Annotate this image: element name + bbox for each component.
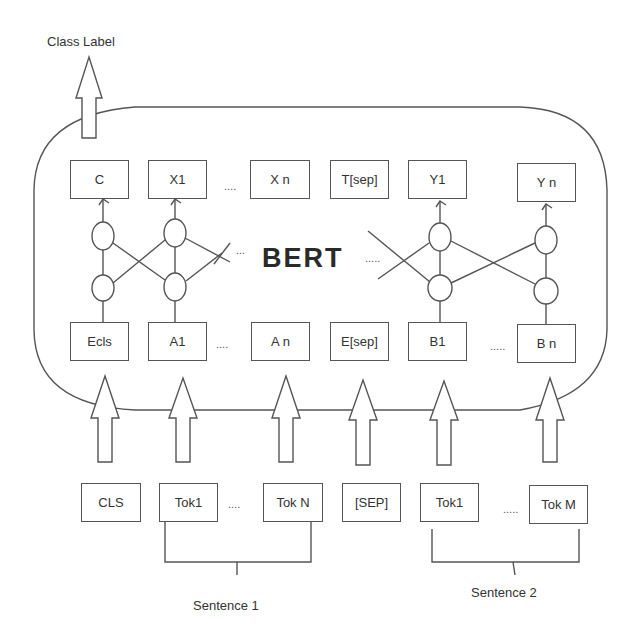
embedding-token-label: B1: [430, 334, 446, 349]
input-box-tok1-s1: Tok1: [159, 483, 218, 522]
input-token-label: [SEP]: [355, 495, 388, 510]
output-box-y1: Y1: [408, 160, 467, 199]
node-circle: [534, 278, 558, 304]
input-token-label: CLS: [98, 495, 123, 510]
node-circle: [429, 223, 451, 251]
input-token-label: Tok1: [436, 495, 463, 510]
node-circle: [92, 222, 114, 250]
input-box-cls: CLS: [81, 483, 141, 522]
embedding-token-label: Ecls: [87, 334, 112, 349]
embedding-box-b1: B1: [408, 322, 467, 361]
bert-right-ellipsis: .....: [365, 252, 380, 264]
up-arrow-icon: [430, 381, 458, 465]
embedding-box-an: A n: [251, 322, 310, 361]
node-circle: [92, 275, 114, 301]
up-arrow-icon: [349, 380, 377, 465]
sentence-brackets: [165, 522, 579, 575]
output-ellipsis: ....: [224, 180, 236, 192]
input-box-tok1-s2: Tok1: [420, 483, 479, 522]
bert-diagram-canvas: [0, 0, 632, 642]
class-label-text: Class Label: [47, 34, 115, 49]
output-token-label: X1: [170, 172, 186, 187]
embedding-token-label: E[sep]: [341, 334, 378, 349]
embedding-token-label: A n: [271, 334, 290, 349]
output-token-label: X n: [270, 172, 290, 187]
embedding-box-a1: A1: [148, 322, 207, 361]
sentence1-bracket: [165, 522, 311, 562]
up-arrow-icon: [272, 376, 300, 462]
embedding-ellipsis: ....: [216, 338, 228, 350]
input-ellipsis: .....: [503, 503, 518, 515]
input-token-label: Tok N: [276, 495, 309, 510]
up-arrow-icon: [169, 378, 197, 462]
up-arrow-icon: [536, 378, 564, 462]
output-box-xn: X n: [250, 160, 310, 199]
output-box-c: C: [70, 160, 129, 199]
output-token-label: C: [95, 172, 104, 187]
sentence2-bracket: [432, 529, 579, 562]
output-box-x1: X1: [148, 160, 207, 199]
up-arrow-icon: [91, 376, 119, 462]
output-token-label: T[sep]: [341, 172, 377, 187]
embedding-box-bn: B n: [517, 324, 576, 363]
embedding-token-label: B n: [537, 336, 557, 351]
node-circle: [428, 275, 452, 301]
input-box-tokn: Tok N: [263, 483, 323, 522]
input-ellipsis: ....: [228, 498, 240, 510]
output-token-label: Y1: [430, 172, 446, 187]
class-label-arrow-icon: [76, 57, 102, 138]
output-box-yn: Y n: [517, 163, 576, 202]
embedding-token-label: A1: [170, 334, 186, 349]
output-box-tsep: T[sep]: [330, 160, 389, 199]
embedding-ellipsis: .....: [490, 340, 505, 352]
input-token-label: Tok1: [175, 495, 202, 510]
output-token-label: Y n: [537, 175, 556, 190]
embedding-box-esep: E[sep]: [330, 322, 389, 361]
sentence1-label: Sentence 1: [193, 598, 259, 613]
embedding-box-ecls: Ecls: [70, 322, 129, 361]
output-tick-marks: [99, 199, 552, 210]
bert-model-label: BERT: [262, 243, 344, 274]
sentence2-label: Sentence 2: [471, 585, 537, 600]
node-circle: [164, 273, 186, 301]
input-token-label: Tok M: [541, 497, 576, 512]
input-arrows: [91, 376, 564, 465]
node-circle: [164, 219, 186, 247]
input-box-tokm: Tok M: [529, 485, 588, 524]
node-circle: [535, 226, 557, 254]
input-box-sep: [SEP]: [342, 483, 401, 522]
bert-left-ellipsis: ...: [236, 244, 245, 256]
